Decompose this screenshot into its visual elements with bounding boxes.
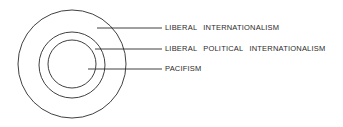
label-liberal-internationalism: LIBERAL INTERNATIONALISM xyxy=(165,24,279,32)
label-pacifism: PACIFISM xyxy=(165,65,201,73)
inner-circle-pacifism xyxy=(48,40,96,88)
label-liberal-political-internationalism: LIBERAL POLITICAL INTERNATIONALISM xyxy=(165,45,325,53)
outer-circle-liberal-internationalism xyxy=(18,10,126,118)
